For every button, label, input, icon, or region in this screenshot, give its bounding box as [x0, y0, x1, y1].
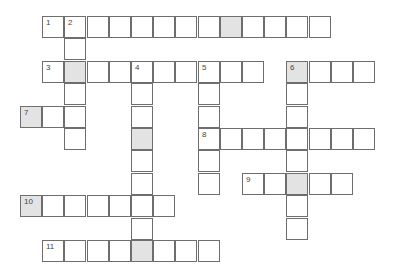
crossword-cell[interactable] — [109, 16, 131, 38]
crossword-cell[interactable] — [175, 16, 197, 38]
crossword-cell[interactable] — [153, 240, 175, 262]
crossword-cell[interactable] — [131, 106, 153, 128]
crossword-cell[interactable] — [286, 150, 308, 172]
crossword-cell[interactable] — [198, 16, 220, 38]
crossword-grid: 1234586791011 — [0, 0, 394, 280]
crossword-cell[interactable] — [64, 195, 86, 217]
crossword-cell[interactable] — [331, 128, 353, 150]
crossword-cell[interactable] — [109, 195, 131, 217]
crossword-cell[interactable] — [286, 218, 308, 240]
clue-number: 9 — [246, 176, 250, 184]
crossword-cell[interactable] — [353, 128, 375, 150]
clue-number: 2 — [68, 19, 72, 27]
crossword-cell[interactable] — [131, 218, 153, 240]
clue-number: 11 — [46, 243, 54, 251]
crossword-cell[interactable] — [109, 240, 131, 262]
crossword-cell[interactable] — [331, 61, 353, 83]
crossword-cell[interactable]: 7 — [20, 106, 42, 128]
crossword-cell[interactable] — [64, 106, 86, 128]
crossword-cell[interactable] — [353, 61, 375, 83]
crossword-cell[interactable] — [175, 61, 197, 83]
crossword-cell[interactable] — [286, 106, 308, 128]
crossword-cell[interactable] — [286, 195, 308, 217]
crossword-cell[interactable]: 10 — [20, 195, 42, 217]
crossword-cell[interactable] — [64, 61, 86, 83]
crossword-cell[interactable]: 5 — [198, 61, 220, 83]
crossword-cell[interactable] — [242, 16, 264, 38]
crossword-cell[interactable] — [87, 195, 109, 217]
crossword-cell[interactable]: 8 — [198, 128, 220, 150]
crossword-cell[interactable] — [64, 128, 86, 150]
crossword-cell[interactable] — [87, 16, 109, 38]
crossword-cell[interactable] — [131, 16, 153, 38]
crossword-cell[interactable] — [153, 16, 175, 38]
crossword-cell[interactable] — [131, 173, 153, 195]
crossword-cell[interactable]: 6 — [286, 61, 308, 83]
crossword-cell[interactable] — [286, 16, 308, 38]
crossword-cell[interactable] — [198, 106, 220, 128]
clue-number: 7 — [24, 109, 28, 117]
crossword-cell[interactable] — [309, 128, 331, 150]
clue-number: 3 — [46, 64, 50, 72]
crossword-cell[interactable]: 11 — [42, 240, 64, 262]
crossword-cell[interactable] — [286, 173, 308, 195]
crossword-cell[interactable] — [286, 83, 308, 105]
clue-number: 4 — [135, 64, 139, 72]
crossword-cell[interactable] — [198, 240, 220, 262]
crossword-cell[interactable] — [220, 128, 242, 150]
crossword-cell[interactable] — [131, 128, 153, 150]
crossword-cell[interactable] — [242, 128, 264, 150]
crossword-cell[interactable] — [264, 173, 286, 195]
crossword-cell[interactable] — [42, 106, 64, 128]
clue-number: 5 — [202, 64, 206, 72]
clue-number: 10 — [24, 198, 33, 206]
clue-number: 1 — [46, 19, 50, 27]
crossword-cell[interactable] — [309, 16, 331, 38]
crossword-cell[interactable]: 9 — [242, 173, 264, 195]
crossword-cell[interactable] — [64, 240, 86, 262]
crossword-cell[interactable] — [309, 173, 331, 195]
crossword-cell[interactable] — [131, 240, 153, 262]
crossword-cell[interactable] — [242, 61, 264, 83]
crossword-cell[interactable] — [42, 195, 64, 217]
crossword-cell[interactable] — [264, 128, 286, 150]
crossword-cell[interactable] — [87, 61, 109, 83]
clue-number: 8 — [202, 131, 206, 139]
crossword-cell[interactable]: 3 — [42, 61, 64, 83]
crossword-cell[interactable] — [286, 128, 308, 150]
crossword-cell[interactable]: 4 — [131, 61, 153, 83]
crossword-cell[interactable] — [198, 173, 220, 195]
crossword-cell[interactable] — [198, 150, 220, 172]
crossword-cell[interactable] — [87, 240, 109, 262]
crossword-cell[interactable] — [131, 83, 153, 105]
crossword-cell[interactable] — [331, 173, 353, 195]
crossword-cell[interactable] — [109, 61, 131, 83]
crossword-cell[interactable] — [64, 83, 86, 105]
crossword-cell[interactable] — [220, 61, 242, 83]
crossword-cell[interactable] — [264, 16, 286, 38]
crossword-cell[interactable] — [131, 195, 153, 217]
crossword-cell[interactable] — [309, 61, 331, 83]
crossword-cell[interactable] — [153, 195, 175, 217]
crossword-cell[interactable] — [153, 61, 175, 83]
clue-number: 6 — [290, 64, 294, 72]
crossword-cell[interactable] — [198, 83, 220, 105]
crossword-cell[interactable] — [64, 38, 86, 60]
crossword-cell[interactable]: 1 — [42, 16, 64, 38]
crossword-cell[interactable] — [220, 16, 242, 38]
crossword-cell[interactable] — [131, 150, 153, 172]
crossword-cell[interactable]: 2 — [64, 16, 86, 38]
crossword-cell[interactable] — [175, 240, 197, 262]
